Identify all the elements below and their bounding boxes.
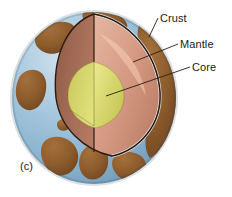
crust-leader-line	[149, 18, 158, 37]
label-crust: Crust	[160, 12, 187, 24]
figure-caption: (c)	[20, 160, 33, 172]
label-mantle: Mantle	[180, 38, 214, 50]
label-core: Core	[192, 61, 216, 73]
earth-cutaway-diagram	[0, 0, 232, 197]
